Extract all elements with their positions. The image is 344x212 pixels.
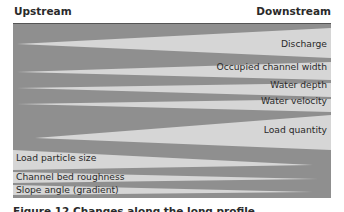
downstream-heading: Downstream <box>256 5 331 17</box>
label-slope-angle: Slope angle (gradient) <box>16 184 119 195</box>
label-water-velocity: Water velocity <box>261 95 327 106</box>
label-channel-bed-roughness: Channel bed roughness <box>16 171 125 182</box>
label-occupied-channel-width: Occupied channel width <box>216 61 327 72</box>
label-load-quantity: Load quantity <box>264 124 327 135</box>
label-load-particle-size: Load particle size <box>16 152 96 163</box>
figure-caption: Figure 12 Changes along the long profile <box>13 204 255 212</box>
label-water-depth: Water depth <box>270 79 327 90</box>
upstream-heading: Upstream <box>14 5 72 17</box>
label-discharge: Discharge <box>281 38 327 49</box>
